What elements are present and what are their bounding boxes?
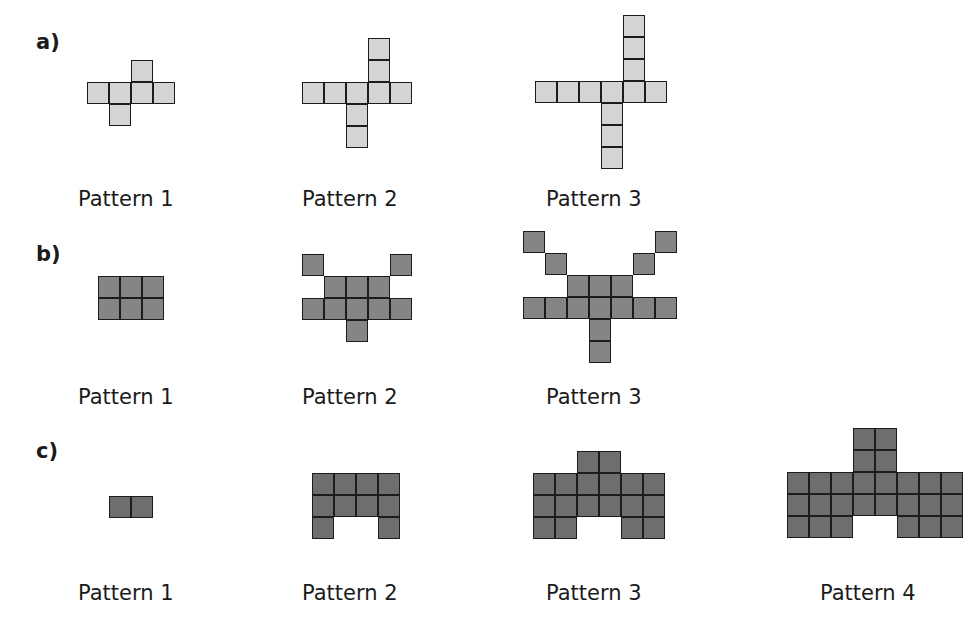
section-c-pattern-1-label: Pattern 1 — [78, 583, 174, 604]
section-c-pattern-4-label: Pattern 4 — [820, 583, 916, 604]
square-tile — [378, 495, 400, 517]
square-tile — [98, 298, 120, 320]
square-tile — [623, 37, 645, 59]
square-tile — [853, 428, 875, 450]
square-tile — [655, 231, 677, 253]
square-tile — [809, 472, 831, 494]
square-tile — [555, 517, 577, 539]
square-tile — [643, 517, 665, 539]
square-tile — [356, 473, 378, 495]
square-tile — [523, 297, 545, 319]
square-tile — [621, 495, 643, 517]
square-tile — [533, 517, 555, 539]
square-tile — [131, 60, 153, 82]
section-b-pattern-1-label: Pattern 1 — [78, 387, 174, 408]
square-tile — [378, 473, 400, 495]
square-tile — [368, 276, 390, 298]
square-tile — [334, 495, 356, 517]
square-tile — [621, 473, 643, 495]
square-tile — [589, 275, 611, 297]
square-tile — [577, 451, 599, 473]
square-tile — [535, 81, 557, 103]
square-tile — [643, 495, 665, 517]
square-tile — [545, 253, 567, 275]
square-tile — [643, 473, 665, 495]
square-tile — [346, 298, 368, 320]
square-tile — [611, 297, 633, 319]
square-tile — [853, 472, 875, 494]
square-tile — [312, 517, 334, 539]
square-tile — [897, 472, 919, 494]
square-tile — [941, 494, 963, 516]
square-tile — [853, 450, 875, 472]
square-tile — [312, 473, 334, 495]
square-tile — [346, 104, 368, 126]
square-tile — [368, 82, 390, 104]
square-tile — [601, 81, 623, 103]
square-tile — [153, 82, 175, 104]
square-tile — [623, 59, 645, 81]
square-tile — [346, 276, 368, 298]
square-tile — [142, 298, 164, 320]
section-b-pattern-2-label: Pattern 2 — [302, 387, 398, 408]
square-tile — [831, 516, 853, 538]
square-tile — [390, 82, 412, 104]
square-tile — [533, 495, 555, 517]
square-tile — [567, 275, 589, 297]
square-tile — [368, 298, 390, 320]
square-tile — [98, 276, 120, 298]
square-tile — [831, 494, 853, 516]
square-tile — [555, 495, 577, 517]
square-tile — [324, 82, 346, 104]
square-tile — [875, 428, 897, 450]
square-tile — [897, 494, 919, 516]
square-tile — [131, 496, 153, 518]
section-a-pattern-2-label: Pattern 2 — [302, 189, 398, 210]
square-tile — [346, 320, 368, 342]
square-tile — [601, 103, 623, 125]
square-tile — [390, 298, 412, 320]
square-tile — [919, 494, 941, 516]
square-tile — [589, 319, 611, 341]
square-tile — [545, 297, 567, 319]
square-tile — [941, 472, 963, 494]
square-tile — [579, 81, 601, 103]
square-tile — [787, 494, 809, 516]
section-c-label: c) — [36, 441, 58, 462]
square-tile — [809, 516, 831, 538]
square-tile — [378, 517, 400, 539]
square-tile — [368, 60, 390, 82]
square-tile — [577, 473, 599, 495]
square-tile — [589, 341, 611, 363]
square-tile — [142, 276, 164, 298]
square-tile — [831, 472, 853, 494]
square-tile — [577, 495, 599, 517]
square-tile — [523, 231, 545, 253]
square-tile — [875, 472, 897, 494]
section-b-label: b) — [36, 244, 61, 265]
square-tile — [567, 297, 589, 319]
section-a-pattern-3-label: Pattern 3 — [546, 189, 642, 210]
square-tile — [312, 495, 334, 517]
square-tile — [919, 472, 941, 494]
square-tile — [941, 516, 963, 538]
square-tile — [533, 473, 555, 495]
square-tile — [875, 450, 897, 472]
square-tile — [621, 517, 643, 539]
square-tile — [787, 516, 809, 538]
square-tile — [109, 104, 131, 126]
section-a-pattern-1-label: Pattern 1 — [78, 189, 174, 210]
square-tile — [302, 254, 324, 276]
section-c-pattern-2-label: Pattern 2 — [302, 583, 398, 604]
square-tile — [334, 473, 356, 495]
square-tile — [368, 38, 390, 60]
square-tile — [120, 276, 142, 298]
square-tile — [875, 494, 897, 516]
square-tile — [645, 81, 667, 103]
square-tile — [302, 82, 324, 104]
section-c-pattern-3-label: Pattern 3 — [546, 583, 642, 604]
square-tile — [633, 297, 655, 319]
square-tile — [109, 82, 131, 104]
square-tile — [324, 276, 346, 298]
section-b-pattern-3-label: Pattern 3 — [546, 387, 642, 408]
